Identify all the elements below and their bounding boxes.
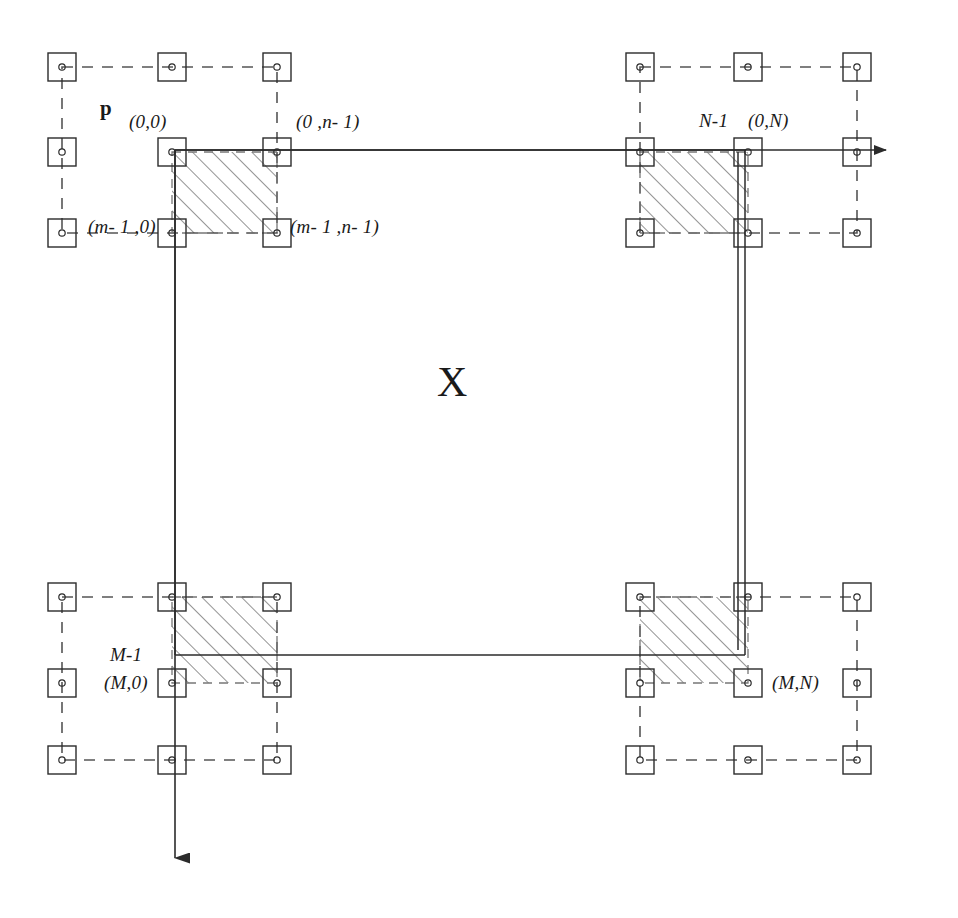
node-cell (843, 746, 871, 774)
node-cell (734, 53, 762, 81)
label-top-right-0-N: (0,N) (748, 110, 789, 132)
node-cell (263, 746, 291, 774)
label-center-X: X (437, 358, 468, 406)
node-cell (626, 746, 654, 774)
node-cell (48, 138, 76, 166)
node-cell (263, 219, 291, 247)
node-cell (843, 583, 871, 611)
node-cell (158, 669, 186, 697)
node-cell (48, 219, 76, 247)
node-cell (734, 669, 762, 697)
node-cell (263, 53, 291, 81)
node-cell (734, 583, 762, 611)
node-cell (263, 138, 291, 166)
node-cell (843, 219, 871, 247)
node-cell (158, 746, 186, 774)
node-cell (48, 583, 76, 611)
node-cell (734, 746, 762, 774)
hatch-block-top-left (172, 152, 277, 233)
label-p: p (100, 96, 112, 121)
node-cell (48, 746, 76, 774)
node-cell (843, 53, 871, 81)
node-cell (626, 669, 654, 697)
node-cell (263, 669, 291, 697)
node-cell (48, 669, 76, 697)
node-cell (158, 583, 186, 611)
node-cell (843, 669, 871, 697)
hatch-block-bottom-right (640, 597, 748, 683)
node-cell (158, 138, 186, 166)
node-cell (626, 138, 654, 166)
label-bottom-left-M-1: M-1 (110, 644, 142, 666)
hatch-block-top-right (640, 152, 748, 233)
node-cell (158, 53, 186, 81)
hatched-blocks (172, 152, 748, 683)
label-top-right-N-1: N-1 (699, 110, 728, 132)
node-cell (263, 583, 291, 611)
label-bottom-left-M-0: (M,0) (104, 672, 148, 694)
label-top-left-m-1-0: (m- 1 ,0) (88, 216, 156, 238)
node-cell (734, 138, 762, 166)
label-top-left-origin: (0,0) (129, 111, 166, 133)
node-cell (626, 53, 654, 81)
diagram-canvas: p (0,0) (0 ,n- 1) (m- 1 ,0) (m- 1 ,n- 1)… (0, 0, 958, 918)
figure-svg (0, 0, 958, 918)
node-cell (843, 138, 871, 166)
node-cell (626, 583, 654, 611)
hatch-block-bottom-left (172, 597, 277, 683)
node-cell (734, 219, 762, 247)
label-top-left-m-1-n-1: (m- 1 ,n- 1) (290, 216, 379, 238)
node-cell (626, 219, 654, 247)
label-bottom-right-M-N: (M,N) (772, 672, 819, 694)
label-top-left-0-n-1: (0 ,n- 1) (296, 111, 360, 133)
node-cell (158, 219, 186, 247)
node-cell (48, 53, 76, 81)
